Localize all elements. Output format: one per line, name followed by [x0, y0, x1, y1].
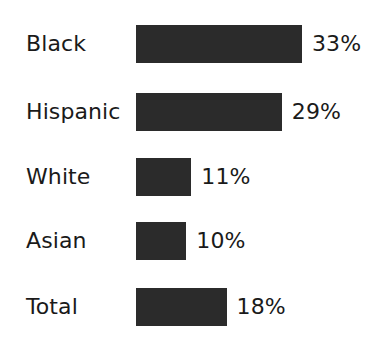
bar-track	[136, 158, 191, 196]
bar-track	[136, 25, 302, 63]
category-label: Asian	[26, 222, 87, 260]
bar-row: Hispanic 29%	[0, 93, 388, 131]
value-label-white: 11%	[201, 158, 250, 196]
bar-track	[136, 222, 186, 260]
bar-row: Black 33%	[0, 25, 388, 63]
bar-row: Total 18%	[0, 288, 388, 326]
bar-total	[136, 288, 227, 326]
bar-row: Asian 10%	[0, 222, 388, 260]
plot-area: Black 33% Hispanic 29% White 11% Asian	[0, 0, 388, 346]
bar-track	[136, 288, 227, 326]
category-label: Hispanic	[26, 93, 121, 131]
category-label: Total	[26, 288, 78, 326]
category-label: White	[26, 158, 90, 196]
category-label: Black	[26, 25, 86, 63]
value-label-total: 18%	[237, 288, 286, 326]
bar-black	[136, 25, 302, 63]
bar-track	[136, 93, 282, 131]
bar-white	[136, 158, 191, 196]
bar-hispanic	[136, 93, 282, 131]
value-label-hispanic: 29%	[292, 93, 341, 131]
bar-chart: Black 33% Hispanic 29% White 11% Asian	[0, 0, 388, 346]
value-label-black: 33%	[312, 25, 361, 63]
bar-asian	[136, 222, 186, 260]
bar-row: White 11%	[0, 158, 388, 196]
value-label-asian: 10%	[196, 222, 245, 260]
